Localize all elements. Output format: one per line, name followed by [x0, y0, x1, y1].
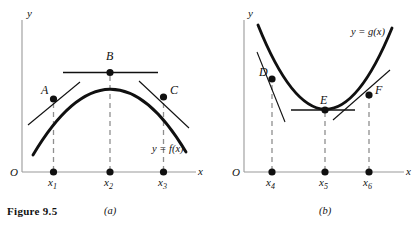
tick-sub: 5: [324, 182, 328, 191]
panel-a-point-A: [50, 95, 57, 102]
panel-a-tick-dot-x3: [160, 168, 167, 175]
panel-b-sublabel: (b): [319, 206, 331, 217]
panel-b-tick-label-x5: x5: [319, 177, 328, 191]
panel-b-point-F: [365, 91, 372, 98]
panel-b-y-axis-label: y: [248, 8, 253, 19]
panel-a-tick-dot-x1: [50, 168, 57, 175]
panel-b-tick-label-x6: x6: [363, 177, 372, 191]
tick-sub: 2: [109, 182, 113, 191]
figure-9-5: y x O A B C x1 x2 x3 y = f(x) (a) y x O …: [0, 0, 418, 237]
panel-b-tangent-at-D: [257, 52, 285, 122]
panel-b-point-D: [268, 75, 275, 82]
panel-b-label-F: F: [375, 84, 382, 96]
panel-a-function-label: y = f(x): [152, 144, 184, 155]
panel-a-label-C: C: [170, 84, 178, 96]
tick-sub: 6: [368, 182, 372, 191]
panel-b-tick-dot-x4: [268, 168, 275, 175]
panel-a-sublabel: (a): [104, 206, 116, 217]
panel-b-tick-dot-x6: [365, 168, 372, 175]
panel-b-origin-label: O: [232, 167, 240, 178]
panel-a-tick-label-x2: x2: [104, 177, 113, 191]
panel-a-tick-dot-x2: [106, 168, 113, 175]
panel-b-label-E: E: [320, 94, 327, 106]
panel-b-x-axis-label: x: [406, 166, 411, 177]
panel-b-label-D: D: [259, 66, 268, 78]
figure-caption: Figure 9.5: [7, 205, 57, 217]
panel-a-point-C: [160, 93, 167, 100]
panel-a-label-B: B: [106, 50, 113, 62]
panel-a-tick-label-x1: x1: [48, 177, 57, 191]
tick-sub: 1: [53, 182, 57, 191]
tick-sub: 3: [163, 182, 167, 191]
panel-b-function-label: y = g(x): [351, 27, 385, 38]
tick-sub: 4: [271, 182, 275, 191]
panel-a-y-axis-label: y: [27, 8, 32, 19]
panel-b-tick-label-x4: x4: [266, 177, 275, 191]
panel-a-point-B: [106, 69, 113, 76]
panel-a-tick-label-x3: x3: [158, 177, 167, 191]
panel-a-origin-label: O: [10, 167, 18, 178]
panel-a-x-axis-label: x: [198, 166, 203, 177]
panel-b-tick-dot-x5: [321, 168, 328, 175]
panel-b-point-E: [321, 106, 328, 113]
panel-a-tangent-at-A: [28, 82, 80, 125]
panel-a-label-A: A: [41, 84, 48, 96]
